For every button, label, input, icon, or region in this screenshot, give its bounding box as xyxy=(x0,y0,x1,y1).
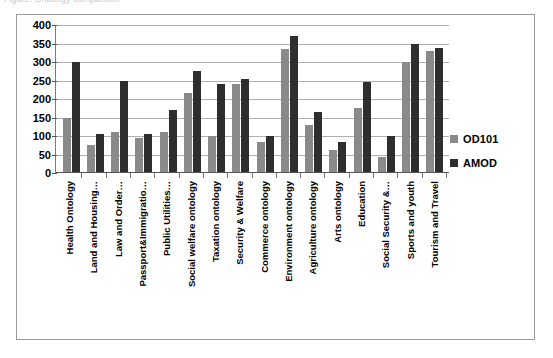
x-axis-tick-cell xyxy=(58,173,82,179)
bar-od101[interactable] xyxy=(87,145,95,173)
x-axis-tick-cell xyxy=(204,173,228,179)
bar-group xyxy=(156,25,180,173)
legend-item[interactable]: AMOD xyxy=(450,157,524,169)
chart-plot-wrapper: 400350300250200150100500 Health Ontology… xyxy=(17,15,534,339)
bar-amod[interactable] xyxy=(120,81,128,174)
bar-od101[interactable] xyxy=(329,150,337,173)
bar-amod[interactable] xyxy=(217,84,225,173)
y-axis-tick-label: 50 xyxy=(39,150,51,160)
x-axis-label-cell: Taxation ontology xyxy=(204,181,228,311)
x-axis-category-label: Education xyxy=(357,181,367,227)
x-axis-label-cell: Law and Order… xyxy=(107,181,131,311)
y-axis-tickmark xyxy=(52,62,57,63)
y-axis-tickmark xyxy=(52,136,57,137)
legend-item[interactable]: OD101 xyxy=(450,133,524,145)
bar-group xyxy=(205,25,229,173)
bar-amod[interactable] xyxy=(387,136,395,173)
x-axis-label-cell: Passport&Immigratio… xyxy=(131,181,155,311)
x-axis-category-label: Sports and youth xyxy=(406,181,416,259)
bar-group xyxy=(108,25,132,173)
bar-od101[interactable] xyxy=(354,108,362,173)
bar-amod[interactable] xyxy=(241,79,249,173)
x-axis-tick-cell xyxy=(107,173,131,179)
x-axis-tick-cell xyxy=(228,173,252,179)
y-axis-tickmark xyxy=(52,118,57,119)
x-axis-label-cell: Arts ontology xyxy=(325,181,349,311)
x-axis-label-cell: Land and Housing… xyxy=(82,181,106,311)
x-axis-tick-cell xyxy=(325,173,349,179)
bar-od101[interactable] xyxy=(111,132,119,173)
x-axis-label-cell: Social welfare ontology xyxy=(180,181,204,311)
y-axis-tick-label: 250 xyxy=(33,76,51,86)
chart-legend: OD101AMOD xyxy=(450,133,524,181)
x-axis-category-label: Health Ontology xyxy=(65,181,75,254)
bar-od101[interactable] xyxy=(257,142,265,173)
x-axis-label-cell: Agriculture ontology xyxy=(301,181,325,311)
bar-group xyxy=(253,25,277,173)
y-axis-tick-label: 0 xyxy=(45,168,51,178)
y-axis-labels: 400350300250200150100500 xyxy=(17,25,53,173)
bar-group xyxy=(277,25,301,173)
y-axis-tick-label: 300 xyxy=(33,57,51,67)
bar-od101[interactable] xyxy=(426,51,434,173)
x-axis-tick-cell xyxy=(423,173,447,179)
bar-amod[interactable] xyxy=(266,136,274,173)
bar-od101[interactable] xyxy=(184,93,192,173)
x-axis-tick-cell xyxy=(155,173,179,179)
x-axis-category-labels: Health OntologyLand and Housing…Law and … xyxy=(55,181,449,311)
y-axis-tick-label: 200 xyxy=(33,94,51,104)
x-axis-tick-cell xyxy=(301,173,325,179)
bar-od101[interactable] xyxy=(378,157,386,173)
bar-amod[interactable] xyxy=(144,134,152,173)
x-axis-category-label: Security & Welfare xyxy=(235,181,245,265)
x-axis-label-cell: Security & Welfare xyxy=(228,181,252,311)
y-axis-tick-label: 150 xyxy=(33,113,51,123)
x-axis-category-label: Environment ontology xyxy=(284,181,294,282)
bar-amod[interactable] xyxy=(290,36,298,173)
x-axis-label-cell: Public Utilities… xyxy=(155,181,179,311)
bar-amod[interactable] xyxy=(314,112,322,173)
y-axis-tickmark xyxy=(52,44,57,45)
bar-amod[interactable] xyxy=(96,134,104,173)
x-axis-category-label: Social Security &… xyxy=(381,181,391,268)
bar-amod[interactable] xyxy=(72,62,80,173)
y-axis-tick-label: 400 xyxy=(33,20,51,30)
bar-amod[interactable] xyxy=(363,82,371,173)
legend-label: AMOD xyxy=(463,157,497,169)
bar-od101[interactable] xyxy=(281,49,289,173)
bar-amod[interactable] xyxy=(338,142,346,173)
x-axis-tick-cell xyxy=(350,173,374,179)
bar-od101[interactable] xyxy=(232,84,240,173)
bar-group xyxy=(59,25,83,173)
bar-group xyxy=(374,25,398,173)
y-axis-tickmark xyxy=(52,155,57,156)
bar-amod[interactable] xyxy=(193,71,201,173)
bar-od101[interactable] xyxy=(402,62,410,173)
x-axis-category-label: Social welfare ontology xyxy=(187,181,197,287)
x-axis-label-cell: Sports and youth xyxy=(398,181,422,311)
x-axis-tick-cell xyxy=(277,173,301,179)
legend-color-swatch xyxy=(450,159,458,167)
bar-amod[interactable] xyxy=(411,44,419,174)
x-axis-tick-cell xyxy=(374,173,398,179)
bar-amod[interactable] xyxy=(169,110,177,173)
x-axis-label-cell: Education xyxy=(350,181,374,311)
figure-caption-text: Figure: Ontology comparison xyxy=(4,0,553,4)
x-axis-category-label: Tourism and Travel xyxy=(430,181,440,267)
x-axis-tick-cell xyxy=(131,173,155,179)
x-axis-label-cell: Environment ontology xyxy=(277,181,301,311)
x-axis-category-label: Agriculture ontology xyxy=(308,181,318,274)
y-axis-tickmark xyxy=(52,25,57,26)
x-axis-tickmarks xyxy=(55,173,449,179)
bar-od101[interactable] xyxy=(160,132,168,173)
legend-label: OD101 xyxy=(463,133,498,145)
bar-od101[interactable] xyxy=(208,136,216,173)
y-axis-tick-label: 350 xyxy=(33,39,51,49)
bar-od101[interactable] xyxy=(305,125,313,173)
bar-groups xyxy=(56,25,449,173)
bar-amod[interactable] xyxy=(435,48,443,173)
bar-od101[interactable] xyxy=(63,118,71,174)
x-axis-label-cell: Tourism and Travel xyxy=(423,181,447,311)
chart-frame: 400350300250200150100500 Health Ontology… xyxy=(16,14,535,340)
bar-od101[interactable] xyxy=(135,138,143,173)
